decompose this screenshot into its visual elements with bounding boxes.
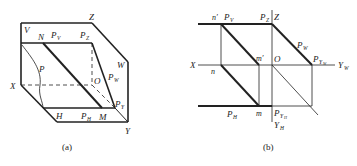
label-x-axis: X [189, 60, 196, 70]
label-pyh-subsub: H [283, 115, 288, 120]
label-pv-sub: V [230, 17, 234, 23]
label-pw: P [296, 40, 303, 50]
label-yw-sub: W [344, 65, 349, 71]
label-y-axis: Y [125, 126, 131, 136]
label-n: n [211, 67, 215, 76]
label-h-plane: H [55, 111, 63, 121]
label-pz: P [259, 12, 266, 22]
caption-a: (a) [62, 142, 72, 152]
label-ph-sub: H [86, 116, 92, 122]
label-n-prime: n′ [212, 13, 218, 22]
label-z-axis: Z [274, 12, 280, 22]
label-x-axis: X [9, 81, 16, 91]
label-py: P [114, 99, 121, 109]
label-ph-sub: H [232, 114, 238, 120]
label-yh-sub: H [279, 125, 285, 131]
projection-figure: V N P V P Z Z W P O P W X P Y H P H M Y … [0, 0, 357, 166]
label-ph: P [80, 111, 87, 121]
label-v-plane: V [24, 25, 31, 35]
label-m-prime: m′ [256, 54, 264, 63]
label-m: m [256, 109, 262, 118]
label-plane-p: P [38, 64, 45, 74]
figure-a-labels: V N P V P Z Z W P O P W X P Y H P H M Y … [9, 12, 131, 152]
label-pyw: P [312, 54, 319, 64]
label-pv: P [223, 12, 230, 22]
label-pv: P [50, 30, 57, 40]
label-ph: P [226, 109, 233, 119]
caption-b: (b) [263, 142, 274, 152]
label-origin-o: O [94, 76, 101, 86]
label-py-sub: Y [121, 104, 125, 110]
label-z-axis: Z [89, 12, 95, 22]
figure-b [198, 10, 335, 122]
label-point-n: N [37, 32, 45, 42]
label-point-m: M [98, 112, 107, 122]
label-pw: P [107, 72, 114, 82]
label-pz-sub: Z [86, 35, 90, 41]
label-pyh: P [273, 108, 280, 118]
label-pv-sub: V [57, 35, 61, 41]
label-pz: P [79, 30, 86, 40]
figure-b-labels: n′ P V P Z Z P W m′ X n O P Y W Y W P H … [189, 12, 349, 152]
label-origin-o: O [274, 54, 281, 64]
label-pz-sub: Z [266, 17, 270, 23]
label-w-plane: W [117, 60, 126, 70]
label-pw-sub: W [303, 45, 308, 51]
label-pw-sub: W [114, 77, 119, 83]
